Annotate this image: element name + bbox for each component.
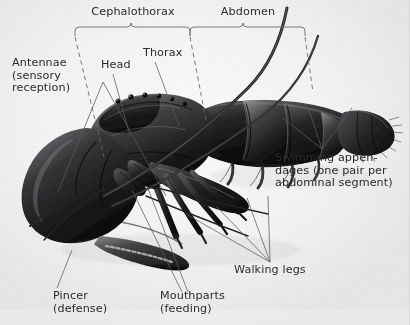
bracket-label-cephalothorax: Cephalothorax <box>73 6 193 19</box>
leader-line-pincer <box>57 250 72 288</box>
lobster-anatomy-figure: Cephalothorax Abdomen Antennae (sensory … <box>0 0 410 325</box>
label-swimming-appendages: Swimming appen- dages (one pair per abdo… <box>275 152 407 190</box>
leader-line-swimming-appendages <box>309 110 322 149</box>
label-antennae: Antennae (sensory reception) <box>12 57 108 95</box>
label-pincer: Pincer (defense) <box>53 290 133 315</box>
bracket-line <box>243 23 305 36</box>
leader-line-mouthparts <box>147 186 188 292</box>
bracket-line <box>75 23 131 36</box>
label-thorax: Thorax <box>143 47 182 60</box>
bracket-line <box>190 23 243 36</box>
leader-line-walking-legs <box>268 196 270 262</box>
boundary-dashed-line <box>305 37 313 92</box>
leader-line-walking-legs <box>216 206 270 262</box>
label-walking-legs: Walking legs <box>234 264 306 277</box>
leader-line-antennae <box>103 82 166 196</box>
leader-line-walking-legs <box>247 198 270 262</box>
leader-line-mouthparts <box>132 190 182 292</box>
leader-line-antennae <box>58 82 103 192</box>
leader-line-thorax <box>155 62 179 126</box>
leader-line-walking-legs <box>186 214 270 262</box>
bracket-label-abdomen: Abdomen <box>191 6 305 19</box>
label-head: Head <box>101 59 131 72</box>
leader-line-swimming-appendages <box>322 108 352 149</box>
bracket-line <box>131 23 190 36</box>
leader-line-swimming-appendages <box>283 118 322 149</box>
label-mouthparts: Mouthparts (feeding) <box>160 290 256 315</box>
boundary-dashed-line <box>190 37 206 120</box>
